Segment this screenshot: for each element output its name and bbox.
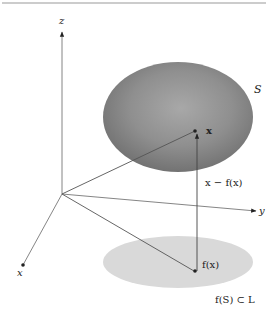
y-axis <box>62 194 256 211</box>
x-axis <box>23 194 62 265</box>
point-x <box>193 129 197 133</box>
residual-label: x − f(x) <box>205 177 243 188</box>
surface-label: S <box>254 83 262 96</box>
projection-label: f(x) <box>202 259 219 270</box>
point-fx <box>193 269 197 273</box>
z-axis-label: z <box>58 15 65 26</box>
point-x-label: x <box>206 125 213 136</box>
surface-ellipsoid <box>103 62 253 172</box>
projection-diagram: z y x S x x − f(x) f(x) f(S) ⊂ L <box>0 0 277 320</box>
x-axis-label: x <box>17 267 23 278</box>
subspace-label: f(S) ⊂ L <box>215 294 255 305</box>
y-axis-label: y <box>258 205 265 216</box>
